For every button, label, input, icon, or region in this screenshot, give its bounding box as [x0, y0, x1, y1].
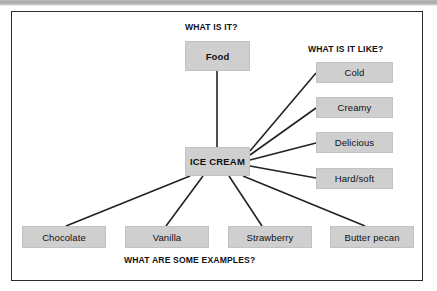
node-strawberry[interactable]: Strawberry [228, 226, 312, 248]
heading-what-is-it-like: WHAT IS IT LIKE? [308, 44, 383, 54]
node-creamy-label: Creamy [338, 102, 372, 113]
node-food[interactable]: Food [185, 41, 250, 71]
node-ice-cream-label: ICE CREAM [190, 156, 245, 167]
node-creamy[interactable]: Creamy [316, 97, 393, 118]
diagram-page: WHAT IS IT? WHAT IS IT LIKE? WHAT ARE SO… [0, 0, 437, 291]
heading-what-are-some-examples: WHAT ARE SOME EXAMPLES? [124, 255, 255, 265]
node-hard-soft[interactable]: Hard/soft [316, 168, 393, 189]
page-top-band-edge [0, 5, 437, 6]
node-strawberry-label: Strawberry [247, 232, 294, 243]
node-ice-cream[interactable]: ICE CREAM [185, 147, 250, 176]
node-hard-soft-label: Hard/soft [335, 173, 374, 184]
node-chocolate[interactable]: Chocolate [22, 226, 106, 248]
node-delicious[interactable]: Delicious [316, 132, 393, 153]
node-chocolate-label: Chocolate [42, 232, 86, 243]
node-butter-pecan-label: Butter pecan [344, 232, 399, 243]
node-cold[interactable]: Cold [316, 62, 393, 83]
node-food-label: Food [206, 51, 230, 62]
node-butter-pecan[interactable]: Butter pecan [330, 226, 414, 248]
node-vanilla[interactable]: Vanilla [125, 226, 209, 248]
node-cold-label: Cold [345, 67, 365, 78]
node-vanilla-label: Vanilla [153, 232, 182, 243]
node-delicious-label: Delicious [335, 137, 374, 148]
heading-what-is-it: WHAT IS IT? [185, 22, 238, 32]
